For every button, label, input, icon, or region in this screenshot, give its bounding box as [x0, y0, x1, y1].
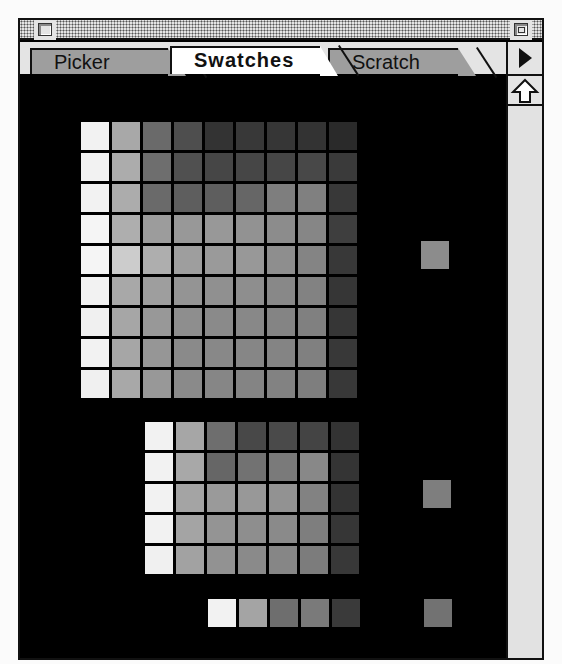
swatch[interactable]: [236, 184, 264, 212]
swatch[interactable]: [176, 515, 204, 543]
swatch[interactable]: [81, 184, 109, 212]
swatch[interactable]: [331, 515, 359, 543]
swatch[interactable]: [267, 370, 295, 398]
title-bar[interactable]: [20, 20, 542, 40]
swatch[interactable]: [269, 515, 297, 543]
swatch[interactable]: [329, 339, 357, 367]
swatch[interactable]: [236, 153, 264, 181]
swatch[interactable]: [329, 308, 357, 336]
swatch[interactable]: [238, 453, 266, 481]
swatch[interactable]: [143, 215, 171, 243]
swatch[interactable]: [207, 546, 235, 574]
swatch-single[interactable]: [421, 241, 449, 269]
swatch[interactable]: [238, 546, 266, 574]
tab-picker[interactable]: Picker: [30, 48, 168, 74]
swatch[interactable]: [267, 153, 295, 181]
swatch[interactable]: [143, 277, 171, 305]
swatch[interactable]: [329, 370, 357, 398]
swatch[interactable]: [207, 484, 235, 512]
tab-swatches[interactable]: Swatches: [170, 46, 320, 74]
swatch[interactable]: [143, 153, 171, 181]
swatch[interactable]: [300, 422, 328, 450]
swatch[interactable]: [174, 184, 202, 212]
swatch[interactable]: [269, 453, 297, 481]
swatch[interactable]: [267, 184, 295, 212]
swatch[interactable]: [329, 122, 357, 150]
swatch[interactable]: [143, 370, 171, 398]
swatch[interactable]: [267, 246, 295, 274]
swatch[interactable]: [208, 599, 236, 627]
swatch[interactable]: [331, 484, 359, 512]
swatch[interactable]: [112, 215, 140, 243]
swatch[interactable]: [238, 484, 266, 512]
swatch[interactable]: [329, 277, 357, 305]
swatch[interactable]: [267, 277, 295, 305]
swatch[interactable]: [331, 422, 359, 450]
swatch[interactable]: [174, 246, 202, 274]
swatch[interactable]: [81, 277, 109, 305]
swatch[interactable]: [205, 122, 233, 150]
swatch[interactable]: [174, 308, 202, 336]
swatch[interactable]: [174, 122, 202, 150]
swatch[interactable]: [269, 422, 297, 450]
swatch[interactable]: [174, 370, 202, 398]
swatch[interactable]: [143, 122, 171, 150]
swatch[interactable]: [298, 215, 326, 243]
palette-menu-button[interactable]: [506, 42, 542, 76]
swatch[interactable]: [112, 339, 140, 367]
swatch[interactable]: [205, 308, 233, 336]
swatch[interactable]: [145, 484, 173, 512]
close-box-icon[interactable]: [38, 23, 52, 36]
swatch[interactable]: [145, 546, 173, 574]
swatch[interactable]: [298, 246, 326, 274]
swatch[interactable]: [205, 246, 233, 274]
swatch-single[interactable]: [424, 599, 452, 627]
swatch[interactable]: [112, 277, 140, 305]
swatch[interactable]: [267, 308, 295, 336]
swatch[interactable]: [298, 339, 326, 367]
swatch[interactable]: [81, 308, 109, 336]
swatch[interactable]: [145, 453, 173, 481]
swatch[interactable]: [207, 422, 235, 450]
swatch[interactable]: [145, 515, 173, 543]
swatch[interactable]: [81, 153, 109, 181]
swatch[interactable]: [267, 122, 295, 150]
swatch[interactable]: [298, 153, 326, 181]
swatch[interactable]: [176, 453, 204, 481]
swatch[interactable]: [207, 453, 235, 481]
swatch[interactable]: [236, 215, 264, 243]
swatch[interactable]: [205, 277, 233, 305]
swatch[interactable]: [329, 246, 357, 274]
vertical-scrollbar[interactable]: [506, 76, 542, 658]
swatch[interactable]: [301, 599, 329, 627]
swatch[interactable]: [205, 215, 233, 243]
swatch[interactable]: [300, 515, 328, 543]
swatch[interactable]: [174, 339, 202, 367]
swatch[interactable]: [207, 515, 235, 543]
swatch[interactable]: [298, 277, 326, 305]
swatch[interactable]: [112, 122, 140, 150]
swatch[interactable]: [298, 370, 326, 398]
swatch[interactable]: [143, 308, 171, 336]
scroll-up-button[interactable]: [508, 76, 542, 106]
swatch[interactable]: [174, 153, 202, 181]
swatch[interactable]: [331, 453, 359, 481]
swatch[interactable]: [205, 370, 233, 398]
swatch[interactable]: [332, 599, 360, 627]
swatch[interactable]: [300, 484, 328, 512]
swatch[interactable]: [236, 370, 264, 398]
swatch[interactable]: [270, 599, 298, 627]
swatch[interactable]: [269, 484, 297, 512]
swatch[interactable]: [205, 184, 233, 212]
swatch[interactable]: [236, 339, 264, 367]
swatch[interactable]: [112, 153, 140, 181]
swatch[interactable]: [174, 277, 202, 305]
swatch[interactable]: [239, 599, 267, 627]
swatch[interactable]: [81, 246, 109, 274]
swatch[interactable]: [298, 184, 326, 212]
swatch[interactable]: [205, 153, 233, 181]
swatch[interactable]: [205, 339, 233, 367]
swatch[interactable]: [329, 153, 357, 181]
swatch[interactable]: [81, 339, 109, 367]
swatch[interactable]: [143, 184, 171, 212]
